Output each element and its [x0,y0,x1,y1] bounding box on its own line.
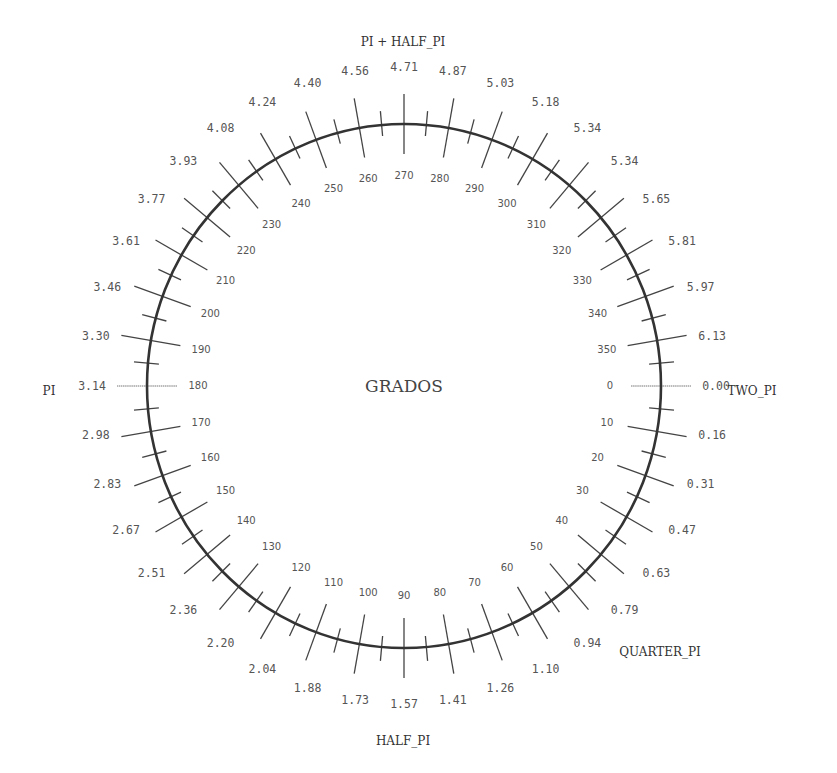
radian-label: 3.93 [170,154,198,168]
minor-tick [425,111,427,136]
radian-label: 0.00 [702,379,730,393]
radian-label: 4.08 [207,121,235,135]
degree-label: 110 [324,577,343,588]
angle-dial-diagram: 0102030405060708090100110120130140150160… [0,0,837,773]
degree-label: 280 [430,173,449,184]
degree-label: 170 [192,417,211,428]
center-title: GRADOS [365,376,443,396]
radian-label: 2.98 [82,428,110,442]
minor-tick [649,362,674,364]
degree-label: 320 [552,245,571,256]
degree-label: 180 [188,380,207,391]
minor-tick [380,111,382,136]
radian-label: 5.34 [574,121,602,135]
radian-label: 2.51 [138,566,166,580]
degree-label: 250 [324,183,343,194]
degree-label: 290 [465,183,484,194]
constant-label: TWO_PI [728,384,777,398]
constant-label: HALF_PI [376,734,431,748]
radian-label: 5.97 [687,280,715,294]
degree-label: 210 [216,275,235,286]
minor-tick [182,228,203,242]
degree-label: 80 [433,587,446,598]
radian-label: 5.03 [487,76,515,90]
constant-label: PI + HALF_PI [361,35,446,49]
radian-label: 1.57 [390,697,418,711]
radian-label: 4.40 [294,76,322,90]
radian-label: 2.67 [112,523,140,537]
radian-label: 2.04 [249,662,277,676]
radian-label: 5.65 [643,192,671,206]
radian-label: 1.26 [487,681,515,695]
degree-label: 310 [527,219,546,230]
radian-label: 6.13 [698,329,726,343]
degree-label: 190 [192,344,211,355]
radian-label: 3.46 [93,280,121,294]
minor-tick [578,564,596,582]
radian-label: 0.47 [668,523,696,537]
radian-label: 4.24 [249,95,277,109]
radian-label: 5.18 [532,95,560,109]
degree-label: 10 [601,417,614,428]
radian-label: 0.16 [698,428,726,442]
degree-label: 100 [359,587,378,598]
minor-tick [380,636,382,661]
radian-label: 4.56 [341,64,369,78]
radian-label: 2.20 [207,636,235,650]
minor-tick [134,408,159,410]
minor-tick [425,636,427,661]
minor-tick [545,592,559,613]
degree-label: 240 [291,198,310,209]
minor-tick [578,191,596,209]
radian-label: 5.81 [668,234,696,248]
radian-label: 0.63 [643,566,671,580]
radian-label: 3.77 [138,192,166,206]
degree-label: 130 [262,541,281,552]
degree-label: 340 [588,308,607,319]
minor-tick [545,160,559,181]
radian-label: 5.34 [611,154,639,168]
degree-label: 140 [237,515,256,526]
radian-label: 3.14 [78,379,106,393]
degree-label: 260 [359,173,378,184]
radian-label: 2.36 [170,603,198,617]
constant-label: PI [43,384,56,398]
radian-label: 0.31 [687,477,715,491]
radian-label: 2.83 [93,477,121,491]
degree-label: 70 [468,577,481,588]
radian-label: 4.71 [390,60,418,74]
radian-label: 1.88 [294,681,322,695]
degree-label: 330 [573,275,592,286]
radian-label: 1.41 [439,693,467,707]
degree-label: 300 [497,198,516,209]
radian-label: 0.94 [574,636,602,650]
minor-tick [212,191,230,209]
minor-tick [249,160,263,181]
radian-label: 1.73 [341,693,369,707]
degree-label: 160 [201,452,220,463]
degree-label: 30 [576,485,589,496]
radian-label: 3.61 [112,234,140,248]
minor-tick [649,408,674,410]
constant-label: QUARTER_PI [619,645,701,659]
degree-label: 220 [237,245,256,256]
degree-label: 50 [530,541,543,552]
minor-tick [606,228,627,242]
degree-label: 20 [591,452,604,463]
degree-label: 0 [607,380,613,391]
minor-tick [134,362,159,364]
degree-label: 350 [597,344,616,355]
degree-label: 60 [501,562,514,573]
degree-label: 270 [394,170,413,181]
minor-tick [182,530,203,544]
degree-label: 90 [398,590,411,601]
radian-label: 0.79 [611,603,639,617]
degree-label: 120 [291,562,310,573]
radian-label: 4.87 [439,64,467,78]
degree-label: 200 [201,308,220,319]
minor-tick [249,592,263,613]
minor-tick [212,564,230,582]
degree-label: 40 [555,515,568,526]
degree-label: 230 [262,219,281,230]
minor-tick [606,530,627,544]
